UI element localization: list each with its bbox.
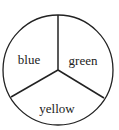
sector-label-green: green bbox=[69, 53, 98, 68]
sector-label-yellow: yellow bbox=[39, 101, 75, 116]
sector-divider-line bbox=[11, 70, 58, 97]
spinner-diagram: blue green yellow bbox=[0, 0, 119, 130]
sector-label-blue: blue bbox=[18, 52, 41, 67]
sector-divider-line bbox=[58, 70, 104, 98]
